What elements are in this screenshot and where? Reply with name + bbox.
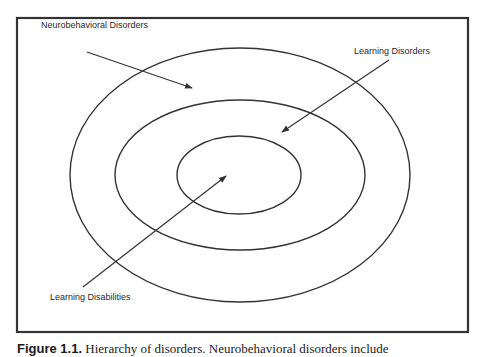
arrow-learning-disabilities [83, 176, 226, 287]
label-learning-disabilities: Learning Disabilities [50, 292, 131, 302]
label-neurobehavioral-disorders: Neurobehavioral Disorders [41, 20, 148, 30]
label-learning-disorders: Learning Disorders [354, 46, 430, 56]
ellipse-learning-disabilities [177, 136, 301, 214]
ellipse-learning-disorders [115, 100, 365, 250]
caption-text: Hierarchy of disorders. Neurobehavioral … [85, 341, 388, 356]
diagram-frame [17, 18, 468, 332]
ellipse-neurobehavioral-disorders [70, 48, 410, 302]
figure-number: Figure 1.1. [17, 341, 82, 356]
figure-caption: Figure 1.1. Hierarchy of disorders. Neur… [17, 341, 389, 357]
